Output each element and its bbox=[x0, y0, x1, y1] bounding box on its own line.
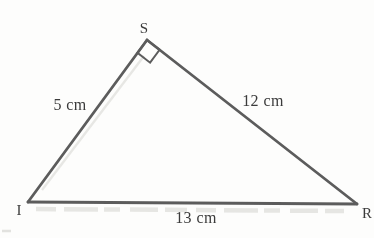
side-line-IS bbox=[28, 40, 147, 202]
vertex-label-S: S bbox=[140, 20, 148, 36]
side-label-IS: 5 cm bbox=[53, 96, 86, 113]
side-line-IR bbox=[28, 202, 357, 204]
side-label-IR: 13 cm bbox=[175, 209, 217, 226]
vertex-label-I: I bbox=[17, 202, 22, 218]
scan-artifact-ghost-line bbox=[42, 56, 144, 190]
side-line-SR bbox=[147, 40, 357, 204]
side-label-SR: 12 cm bbox=[242, 92, 284, 109]
vertex-label-R: R bbox=[362, 205, 372, 221]
triangle-figure: S I R 5 cm 12 cm 13 cm bbox=[0, 0, 374, 238]
triangle-diagram-svg: S I R 5 cm 12 cm 13 cm bbox=[0, 0, 374, 238]
